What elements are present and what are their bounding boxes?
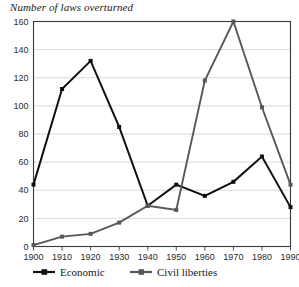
x-tick-label: 1980 — [252, 252, 272, 262]
x-tick-label: 1950 — [166, 252, 186, 262]
x-tick-label: 1930 — [109, 252, 129, 262]
legend-label-0: Economic — [60, 266, 105, 278]
data-point-marker — [32, 243, 36, 247]
data-point-marker — [32, 183, 36, 187]
chart-figure: Number of laws overturned 02040608010012… — [0, 0, 299, 287]
line-chart-plot: 020406080100120140160 190019101920193019… — [0, 0, 299, 287]
legend-marker-1 — [139, 269, 145, 275]
y-tick-label: 100 — [13, 101, 28, 111]
x-tick-label: 1910 — [52, 252, 72, 262]
x-tick-label: 1970 — [223, 252, 243, 262]
legend-marker-0 — [42, 269, 48, 275]
y-tick-label: 60 — [18, 157, 28, 167]
data-point-marker — [89, 59, 93, 63]
x-tick-label: 1960 — [195, 252, 215, 262]
data-point-marker — [60, 87, 64, 91]
y-axis-tick-labels: 020406080100120140160 — [13, 17, 28, 252]
data-point-marker — [146, 204, 150, 208]
x-tick-label: 1990 — [280, 252, 299, 262]
data-point-marker — [203, 194, 207, 198]
y-tick-label: 20 — [18, 214, 28, 224]
data-series — [32, 20, 293, 248]
chart-legend: EconomicCivil liberties — [33, 266, 217, 278]
data-point-marker — [174, 183, 178, 187]
data-point-marker — [174, 208, 178, 212]
y-tick-label: 0 — [23, 242, 28, 252]
x-tick-label: 1920 — [81, 252, 101, 262]
data-point-marker — [260, 155, 264, 159]
data-point-marker — [231, 180, 235, 184]
data-point-marker — [231, 20, 235, 24]
data-point-marker — [289, 205, 293, 209]
y-tick-label: 80 — [18, 129, 28, 139]
data-point-marker — [203, 79, 207, 83]
y-tick-label: 140 — [13, 45, 28, 55]
data-point-marker — [89, 232, 93, 236]
data-point-marker — [117, 221, 121, 225]
data-point-marker — [289, 183, 293, 187]
y-tick-label: 40 — [18, 185, 28, 195]
x-tick-label: 1940 — [138, 252, 158, 262]
x-tick-label: 1900 — [23, 252, 43, 262]
x-axis-tick-marks — [34, 247, 291, 251]
x-axis-tick-labels: 1900191019201930194019501960197019801990 — [23, 252, 299, 262]
data-point-marker — [60, 235, 64, 239]
data-point-marker — [117, 125, 121, 129]
legend-label-1: Civil liberties — [157, 266, 217, 278]
data-point-marker — [260, 105, 264, 109]
y-tick-label: 160 — [13, 17, 28, 27]
y-tick-label: 120 — [13, 73, 28, 83]
series-line-civil-liberties — [34, 22, 291, 246]
